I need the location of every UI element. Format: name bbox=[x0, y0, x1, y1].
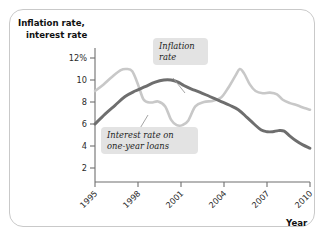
interest-callout-line1: Interest rate on bbox=[106, 130, 174, 140]
interest-rate-callout: Interest rate on one-year loans bbox=[101, 115, 198, 154]
inflation-callout-line2: rate bbox=[159, 52, 176, 62]
y-axis-title: Inflation rate, interest rate bbox=[18, 18, 87, 40]
chart-figure: 12%108642 199519982001200420072010 Infla… bbox=[0, 0, 324, 236]
interest-callout-line2: one-year loans bbox=[107, 141, 170, 151]
y-axis-title-line2: interest rate bbox=[26, 30, 87, 40]
y-axis-title-line1: Inflation rate, bbox=[18, 18, 85, 28]
chart-annotation-layer: Inflation rate, interest rate Year Infla… bbox=[0, 0, 324, 236]
x-axis-title: Year bbox=[285, 218, 308, 228]
inflation-callout-line1: Inflation bbox=[158, 41, 195, 51]
inflation-rate-callout: Inflation rate bbox=[153, 38, 208, 93]
inflation-leader-line bbox=[173, 78, 185, 93]
